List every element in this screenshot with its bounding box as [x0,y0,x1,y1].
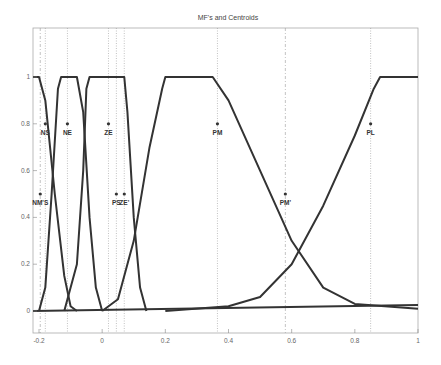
y-tick-label: 0 [26,307,30,314]
centroid-label: NM'S [32,199,49,206]
y-tick-label: 0.2 [21,260,30,267]
x-tick-label: 0.2 [161,337,170,344]
centroid-label: ZE' [119,199,129,206]
y-tick-label: 0.4 [21,213,30,220]
centroid-dot [216,122,219,125]
centroid-label: ZE [104,129,113,136]
x-tick-label: 0.6 [287,337,296,344]
y-tick-label: 0.8 [21,120,30,127]
centroid-dot [369,122,372,125]
mf-centroid-chart: MF's and Centroids NSNEZEPMPLNM'SPSZE'PM… [0,0,441,365]
centroid-dot [115,192,118,195]
centroid-dot [123,192,126,195]
centroid-dot [66,122,69,125]
centroid-dot [39,192,42,195]
centroid-label: PL [366,129,374,136]
x-tick-label: 0.8 [350,337,359,344]
chart-title: MF's and Centroids [198,14,259,21]
centroid-label: NE [63,129,73,136]
centroid-dot [284,192,287,195]
centroid-dot [107,122,110,125]
x-tick-label: 0 [100,337,104,344]
y-tick-label: 1 [26,73,30,80]
centroid-label: PM [213,129,223,136]
x-tick-label: -0.2 [33,337,45,344]
x-tick-label: 1 [416,337,420,344]
plot-area [33,28,418,333]
centroid-label: PM' [280,199,292,206]
centroid-dot [44,122,47,125]
centroid-label: NS [41,129,51,136]
x-tick-label: 0.4 [224,337,233,344]
y-tick-label: 0.6 [21,167,30,174]
